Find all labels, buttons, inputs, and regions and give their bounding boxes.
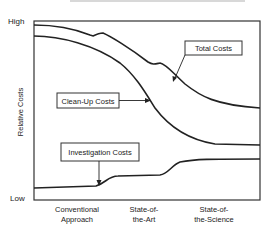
x-category-state-of-science-line1: State-of- xyxy=(200,205,229,214)
cropped-title-remnant xyxy=(70,0,245,2)
total-costs-label: Total Costs xyxy=(195,44,232,53)
clean-up-costs-label: Clean-Up Costs xyxy=(62,97,115,106)
total-costs-arrowhead xyxy=(173,76,178,82)
x-category-conventional-line2: Approach xyxy=(61,215,93,224)
y-tick-low: Low xyxy=(10,194,25,203)
y-tick-high: High xyxy=(8,17,24,26)
x-category-conventional-line1: Conventional xyxy=(55,205,99,214)
y-axis-label: Relative Costs xyxy=(16,88,25,137)
x-category-state-of-art-line1: State-of- xyxy=(130,205,159,214)
chart: High Low Relative Costs Total Costs Clea… xyxy=(0,0,272,234)
total-costs-arrow xyxy=(175,55,185,78)
series-investigation-costs xyxy=(34,159,260,188)
investigation-costs-label: Investigation Costs xyxy=(68,148,132,157)
x-category-state-of-art-line2: the-Art xyxy=(133,215,156,224)
x-category-state-of-science-line2: the-Science xyxy=(194,215,234,224)
